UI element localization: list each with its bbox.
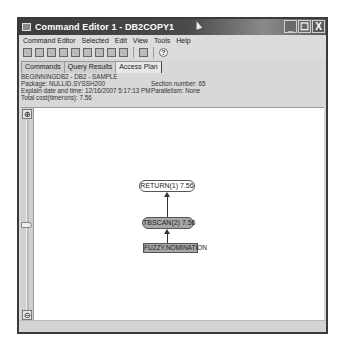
magnifier-icon: ⊖ — [24, 311, 31, 320]
zoom-slider-rail: ⊕ ⊖ — [21, 108, 34, 322]
copy-icon[interactable] — [95, 48, 104, 57]
title-bar[interactable]: Command Editor 1 - DB2COPY1 _ ☐ X — [19, 19, 326, 35]
menu-view[interactable]: View — [133, 37, 148, 44]
magnifier-icon: ⊕ — [24, 110, 31, 119]
access-plan-icon[interactable] — [119, 48, 128, 57]
toolbar-separator — [133, 47, 134, 58]
status-bar — [19, 320, 326, 332]
menu-help[interactable]: Help — [176, 37, 190, 44]
menu-edit[interactable]: Edit — [115, 37, 127, 44]
plan-node-return[interactable]: RETURN(1) 7.56 — [139, 180, 195, 192]
command-editor-window: Command Editor 1 - DB2COPY1 _ ☐ X Comman… — [17, 17, 328, 334]
toolbar-separator — [153, 47, 154, 58]
menu-selected[interactable]: Selected — [82, 37, 109, 44]
access-plan-graph[interactable]: ⊕ ⊖ RETURN(1) 7.56 TBSCAN(2) 7.56 FUZZY.… — [21, 107, 324, 322]
sql-assist-icon[interactable] — [83, 48, 92, 57]
help-icon[interactable]: ? — [159, 48, 168, 57]
layout-icon[interactable] — [139, 48, 148, 57]
close-button[interactable]: X — [312, 20, 325, 33]
save-icon[interactable] — [71, 48, 80, 57]
tab-query-results[interactable]: Query Results — [64, 61, 116, 73]
mouse-cursor-icon — [194, 20, 202, 30]
zoom-slider-thumb[interactable] — [21, 222, 32, 228]
toolbar: ? — [19, 45, 326, 59]
arrow-up-icon — [164, 192, 170, 197]
plan-database-line: BEGINNINGDB2 - DB2 - SAMPLE — [21, 73, 324, 80]
zoom-out-button[interactable]: ⊖ — [22, 310, 32, 320]
menu-command-editor[interactable]: Command Editor — [23, 37, 76, 44]
tab-bar: Commands Query Results Access Plan — [21, 61, 161, 73]
execute-explain-icon[interactable] — [47, 48, 56, 57]
tab-commands[interactable]: Commands — [21, 61, 65, 73]
menu-bar: Command Editor Selected Edit View Tools … — [19, 35, 326, 45]
plan-node-tbscan[interactable]: TBSCAN(2) 7.56 — [142, 217, 194, 229]
open-icon[interactable] — [59, 48, 68, 57]
plan-parallelism: Parallelism: None — [151, 87, 206, 94]
plan-section-number: Section number: 65 — [151, 80, 206, 87]
menu-tools[interactable]: Tools — [154, 37, 170, 44]
plan-edge — [167, 197, 168, 217]
zoom-slider-track[interactable] — [26, 120, 29, 310]
minimize-button[interactable]: _ — [284, 20, 297, 33]
plan-node-table[interactable]: FUZZY.NOMINATION — [143, 243, 198, 253]
options-icon[interactable] — [107, 48, 116, 57]
arrow-up-icon — [164, 229, 170, 234]
plan-info-panel: BEGINNINGDB2 - DB2 - SAMPLE Package: NUL… — [21, 73, 324, 107]
plan-total-cost: Total cost(timerons): 7.56 — [21, 94, 324, 101]
app-icon — [22, 23, 31, 31]
plan-edge — [167, 234, 168, 243]
zoom-in-button[interactable]: ⊕ — [22, 109, 32, 119]
tab-access-plan[interactable]: Access Plan — [115, 61, 162, 73]
connect-icon[interactable] — [23, 48, 32, 57]
execute-icon[interactable] — [35, 48, 44, 57]
window-title: Command Editor 1 - DB2COPY1 — [35, 22, 174, 32]
maximize-button[interactable]: ☐ — [298, 20, 311, 33]
